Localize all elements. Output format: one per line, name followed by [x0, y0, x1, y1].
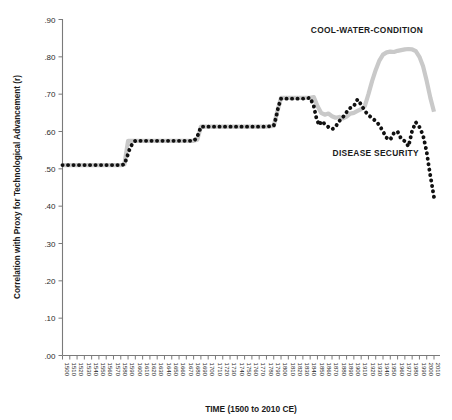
disease-security-label: DISEASE SECURITY	[333, 148, 419, 158]
x-tick-label: 1850	[319, 363, 326, 377]
x-tick-label: 1620	[151, 363, 158, 377]
x-tick-label: 1830	[304, 363, 311, 377]
x-tick-label: 1970	[406, 363, 413, 377]
y-tick-label: .80	[44, 53, 56, 62]
x-tick-label: 1930	[377, 363, 384, 377]
x-tick-label: 1890	[348, 363, 355, 377]
y-tick-label: .60	[44, 128, 56, 137]
x-tick-label: 1740	[239, 363, 246, 377]
x-tick-label: 1900	[355, 363, 362, 377]
x-tick-label: 1640	[166, 363, 173, 377]
x-tick-label: 1820	[297, 363, 304, 377]
x-tick-label: 1570	[115, 363, 122, 377]
x-tick-label: 1530	[86, 363, 93, 377]
x-tick-label: 1870	[333, 363, 340, 377]
y-tick-label: .40	[44, 202, 56, 211]
y-tick-label: .00	[44, 352, 56, 361]
chart-background	[0, 0, 452, 420]
x-tick-label: 1540	[93, 363, 100, 377]
x-tick-label: 1580	[122, 363, 129, 377]
x-tick-label: 1680	[195, 363, 202, 377]
x-tick-label: 1840	[311, 363, 318, 377]
cool-water-condition-label: COOL-WATER-CONDITION	[311, 25, 423, 35]
x-tick-label: 1940	[384, 363, 391, 377]
y-tick-label: .10	[44, 314, 56, 323]
x-tick-label: 1780	[268, 363, 275, 377]
x-tick-label: 1650	[173, 363, 180, 377]
x-tick-label: 1700	[209, 363, 216, 377]
x-tick-label: 1980	[413, 363, 420, 377]
x-tick-label: 2000	[428, 363, 435, 377]
x-tick-label: 1770	[260, 363, 267, 377]
x-tick-label: 1550	[100, 363, 107, 377]
x-tick-label: 1660	[180, 363, 187, 377]
x-tick-label: 1510	[71, 363, 78, 377]
x-tick-label: 1800	[282, 363, 289, 377]
y-tick-label: .20	[44, 277, 56, 286]
x-tick-label: 1760	[253, 363, 260, 377]
y-tick-label: .30	[44, 240, 56, 249]
x-tick-label: 1560	[107, 363, 114, 377]
x-tick-label: 1880	[341, 363, 348, 377]
x-tick-label: 1710	[217, 363, 224, 377]
x-tick-label: 1720	[224, 363, 231, 377]
y-tick-label: .50	[44, 165, 56, 174]
x-tick-label: 1790	[275, 363, 282, 377]
y-axis-title: Correlation with Proxy for Technological…	[13, 75, 22, 299]
x-tick-label: 1610	[144, 363, 151, 377]
chart-svg: .00.10.20.30.40.50.60.70.80.90 150015101…	[0, 0, 452, 420]
x-tick-label: 1910	[362, 363, 369, 377]
y-tick-label: .90	[44, 16, 56, 25]
x-tick-label: 1690	[202, 363, 209, 377]
x-tick-label: 1630	[158, 363, 165, 377]
y-tick-label: .70	[44, 90, 56, 99]
x-tick-label: 1500	[64, 363, 71, 377]
x-tick-label: 1750	[246, 363, 253, 377]
chart-container: .00.10.20.30.40.50.60.70.80.90 150015101…	[0, 0, 452, 420]
x-tick-label: 1730	[231, 363, 238, 377]
x-tick-label: 1810	[290, 363, 297, 377]
x-tick-label: 1590	[129, 363, 136, 377]
x-tick-label: 1520	[78, 363, 85, 377]
x-tick-label: 1950	[391, 363, 398, 377]
x-tick-label: 1920	[370, 363, 377, 377]
x-tick-label: 1860	[326, 363, 333, 377]
x-tick-label: 2010	[435, 363, 442, 377]
x-tick-label: 1960	[399, 363, 406, 377]
x-axis-title: TIME (1500 to 2010 CE)	[205, 404, 297, 414]
x-tick-label: 1670	[188, 363, 195, 377]
x-tick-label: 1600	[137, 363, 144, 377]
x-tick-label: 1990	[421, 363, 428, 377]
